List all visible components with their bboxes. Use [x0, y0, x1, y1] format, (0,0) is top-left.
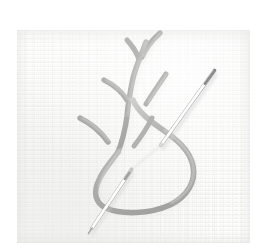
mat-border-left — [0, 0, 17, 251]
mat-border-top — [0, 0, 257, 30]
mat-border-right — [250, 0, 257, 251]
weave-weft-threads — [17, 30, 250, 243]
weave-fine-texture — [17, 30, 250, 243]
weave-warp-threads — [17, 30, 250, 243]
linen-fabric — [17, 30, 250, 243]
photo-canvas — [0, 0, 257, 251]
fabric-lighting-overlay — [17, 30, 250, 243]
mat-border-bottom — [0, 243, 257, 251]
fabric-edge-shading — [17, 30, 250, 243]
